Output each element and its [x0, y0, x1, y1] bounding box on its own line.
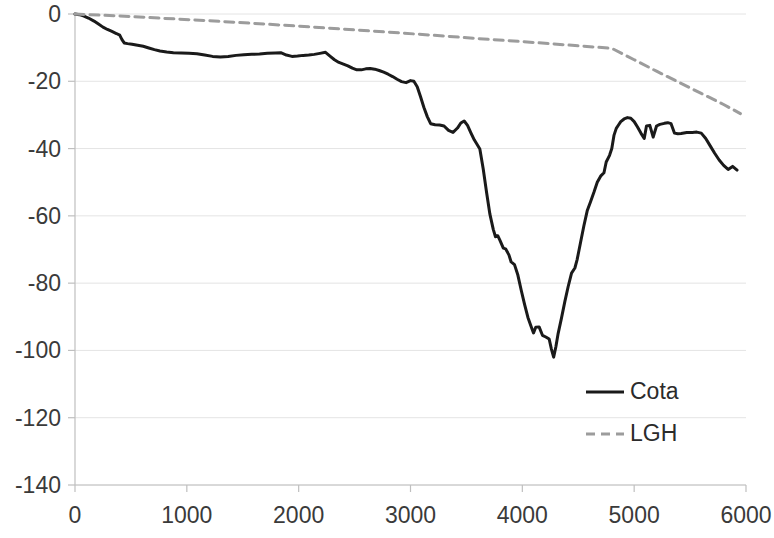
legend-label-cota: Cota [630, 378, 679, 404]
series-line-cota [75, 14, 737, 357]
legend-label-lgh: LGH [630, 420, 677, 446]
y-tick-label: -20 [28, 68, 61, 94]
gridlines-group [75, 14, 746, 485]
x-axis-ticks [75, 485, 746, 492]
series-line-lgh [75, 14, 740, 114]
x-tick-label: 1000 [161, 502, 212, 528]
y-tick-label: -120 [15, 405, 61, 431]
chart-legend: CotaLGH [586, 378, 679, 446]
x-tick-label: 6000 [720, 502, 771, 528]
y-tick-label: -80 [28, 270, 61, 296]
x-tick-label: 3000 [385, 502, 436, 528]
y-tick-label: -140 [15, 472, 61, 498]
x-axis-tick-labels: 0100020003000400050006000 [69, 502, 772, 528]
x-tick-label: 0 [69, 502, 82, 528]
data-series-group [75, 14, 740, 357]
y-tick-label: -40 [28, 136, 61, 162]
y-axis-tick-labels: 0-20-40-60-80-100-120-140 [15, 1, 61, 498]
x-tick-label: 2000 [273, 502, 324, 528]
y-tick-label: -100 [15, 337, 61, 363]
line-chart: 0-20-40-60-80-100-120-140 01000200030004… [0, 0, 774, 538]
y-tick-label: -60 [28, 203, 61, 229]
chart-container: 0-20-40-60-80-100-120-140 01000200030004… [0, 0, 774, 538]
x-tick-label: 5000 [609, 502, 660, 528]
x-tick-label: 4000 [497, 502, 548, 528]
y-tick-label: 0 [48, 1, 61, 27]
y-axis-ticks [68, 14, 75, 485]
